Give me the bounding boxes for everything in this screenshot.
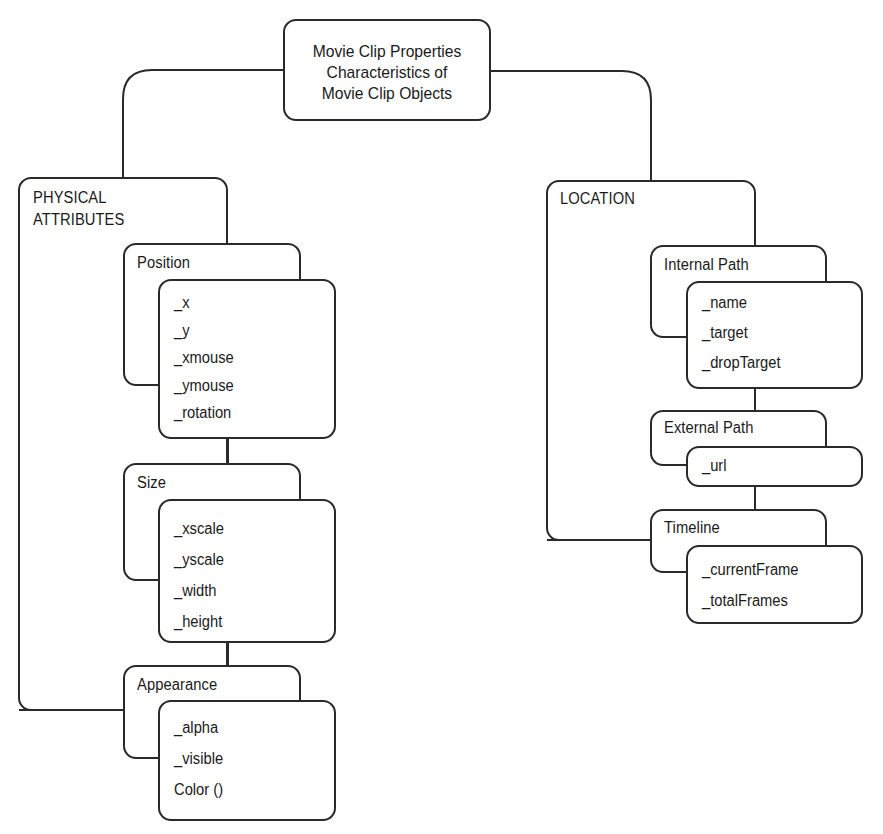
location-title-line-1: LOCATION	[560, 189, 635, 208]
property-item: _height	[174, 606, 224, 637]
property-item: _url	[702, 452, 727, 480]
root-title: Movie Clip Properties Characteristics of…	[293, 41, 481, 104]
timeline-items: _currentFrame _totalFrames	[686, 545, 863, 624]
property-item: _x	[174, 289, 234, 317]
property-item: _currentFrame	[702, 554, 799, 585]
physical-attributes-title: PHYSICAL ATTRIBUTES	[33, 187, 124, 231]
property-item: _xmouse	[174, 344, 234, 372]
property-item: _yscale	[174, 544, 224, 575]
appearance-items: _alpha _visible Color ()	[158, 700, 336, 821]
property-item: _target	[702, 318, 781, 348]
external-path-items: _url	[686, 446, 863, 487]
size-items: _xscale _yscale _width _height	[158, 499, 336, 643]
internal-path-title: Internal Path	[664, 255, 749, 274]
position-items: _x _y _xmouse _ymouse _rotation	[158, 279, 336, 439]
root-to-location-connector	[490, 71, 651, 181]
position-title: Position	[137, 253, 190, 272]
physical-title-line-2: ATTRIBUTES	[33, 209, 124, 231]
property-item: _alpha	[174, 712, 223, 743]
root-node: Movie Clip Properties Characteristics of…	[283, 19, 491, 121]
internal-path-items: _name _target _dropTarget	[686, 281, 863, 389]
property-item: _width	[174, 575, 224, 606]
property-item: _rotation	[174, 399, 234, 427]
property-item: _y	[174, 317, 234, 345]
property-item: _ymouse	[174, 372, 234, 400]
timeline-title: Timeline	[664, 518, 720, 537]
root-title-line-1: Movie Clip Properties	[293, 41, 481, 62]
property-item: _xscale	[174, 513, 224, 544]
location-title: LOCATION	[560, 189, 635, 208]
property-item: Color ()	[174, 774, 223, 805]
appearance-title: Appearance	[137, 675, 217, 694]
property-item: _visible	[174, 743, 223, 774]
root-title-line-2: Characteristics of	[293, 62, 481, 83]
property-item: _dropTarget	[702, 348, 781, 378]
property-item: _totalFrames	[702, 585, 799, 616]
physical-title-line-1: PHYSICAL	[33, 187, 124, 209]
property-item: _name	[702, 288, 781, 318]
size-title: Size	[137, 473, 166, 492]
external-path-title: External Path	[664, 418, 754, 437]
root-to-physical-connector	[123, 70, 283, 178]
root-title-line-3: Movie Clip Objects	[293, 83, 481, 104]
